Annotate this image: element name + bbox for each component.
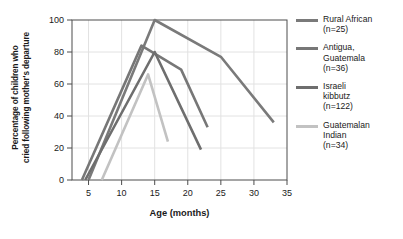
x-tick-label: 10 (117, 188, 127, 198)
y-tick-label: 60 (54, 79, 64, 89)
legend-label-line3: (n=36) (323, 63, 365, 73)
x-tick-label: 30 (249, 188, 259, 198)
legend-label-line2: (n=25) (323, 24, 372, 34)
x-tick-label: 5 (86, 188, 91, 198)
legend-label-line2: Guatemala (323, 53, 365, 63)
legend-label-line1: Israeli (323, 81, 353, 91)
y-tick-label: 80 (54, 47, 64, 57)
legend-swatch-antigua-guatemala (296, 47, 318, 50)
x-axis-ticks: 5101520253035 (86, 180, 292, 198)
legend-swatch-israeli-kibbutz (296, 86, 318, 89)
series-line (82, 46, 208, 180)
y-tick-label: 0 (59, 175, 64, 185)
legend: Rural African (n=25) Antigua, Guatemala … (296, 14, 403, 158)
legend-swatch-guatemalan-indian (296, 125, 318, 128)
legend-label-line1: Antigua, (323, 42, 365, 52)
y-tick-label: 100 (49, 15, 64, 25)
y-tick-label: 20 (54, 143, 64, 153)
x-axis-title: Age (months) (150, 208, 210, 218)
y-axis-ticks: 020406080100 (49, 15, 72, 185)
chart-figure: Percentage of children who cried followi… (0, 0, 403, 239)
legend-item[interactable]: Antigua, Guatemala (n=36) (296, 42, 403, 73)
legend-swatch-rural-african (296, 19, 318, 22)
legend-label-line1: Guatemalan (323, 120, 370, 130)
legend-item[interactable]: Israeli kibbutz (n=122) (296, 81, 403, 112)
y-tick-label: 40 (54, 111, 64, 121)
x-tick-label: 20 (183, 188, 193, 198)
legend-label-line3: (n=34) (323, 140, 370, 150)
legend-item[interactable]: Guatemalan Indian (n=34) (296, 120, 403, 151)
legend-label-line2: kibbutz (323, 91, 353, 101)
legend-label-line3: (n=122) (323, 101, 353, 111)
legend-item[interactable]: Rural African (n=25) (296, 14, 403, 34)
legend-label-line2: Indian (323, 130, 370, 140)
x-tick-label: 25 (216, 188, 226, 198)
x-tick-label: 15 (150, 188, 160, 198)
x-tick-label: 35 (282, 188, 292, 198)
series-lines (82, 20, 274, 180)
legend-label-line1: Rural African (323, 14, 372, 24)
